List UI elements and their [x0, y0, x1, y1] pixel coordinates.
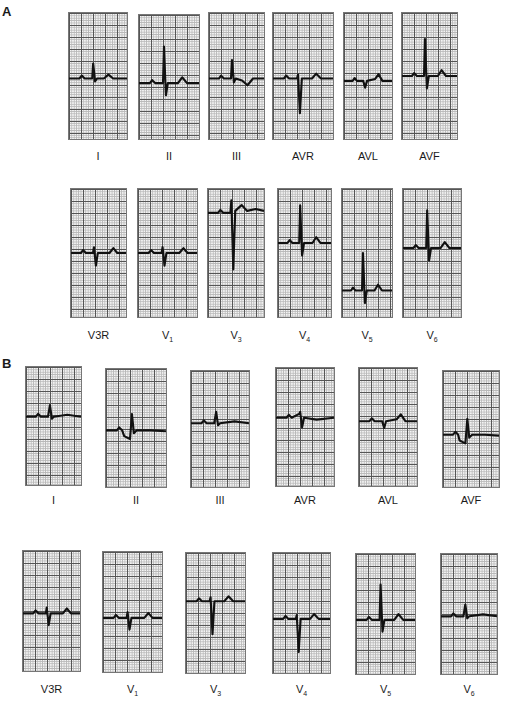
ecg-strip-b-v4 — [272, 552, 331, 674]
section-label-b: B — [2, 356, 11, 371]
lead-label: AVR — [275, 494, 335, 506]
lead-label: V3 — [206, 329, 266, 343]
ecg-trace — [276, 368, 334, 486]
lead-label: V4 — [272, 683, 332, 697]
ecg-trace — [23, 551, 80, 671]
ecg-trace — [139, 15, 199, 139]
lead-name: II — [166, 150, 172, 162]
lead-label: AVF — [441, 494, 501, 506]
ecg-trace — [273, 553, 330, 673]
lead-subscript: 1 — [169, 336, 173, 343]
ecg-strip-b-ii — [105, 368, 167, 488]
lead-subscript: 4 — [306, 336, 310, 343]
ecg-strip-a-iii — [208, 12, 265, 140]
lead-name: I — [96, 150, 99, 162]
lead-name: V — [426, 329, 433, 341]
ecg-trace — [359, 368, 417, 486]
ecg-strip-a-ii — [138, 14, 200, 140]
lead-subscript: 1 — [134, 690, 138, 697]
ecg-strip-b-avr — [275, 367, 335, 487]
lead-label: V1 — [103, 683, 163, 697]
ecg-trace — [26, 367, 81, 485]
ecg-strip-b-v5 — [355, 553, 416, 675]
ecg-trace — [342, 189, 392, 317]
ecg-strip-b-iii — [190, 370, 250, 488]
ecg-strip-b-v3r — [22, 550, 81, 672]
ecg-trace — [402, 13, 457, 139]
ecg-strip-a-v1 — [137, 188, 198, 318]
lead-label: III — [190, 494, 250, 506]
lead-subscript: 3 — [217, 690, 221, 697]
lead-subscript: 5 — [369, 336, 373, 343]
ecg-trace — [103, 552, 162, 672]
lead-label: I — [24, 494, 84, 506]
ecg-strip-a-v3r — [70, 188, 127, 318]
ecg-trace — [69, 13, 127, 139]
ecg-strip-b-v3 — [185, 552, 246, 674]
ecg-trace — [278, 189, 331, 317]
lead-label: II — [106, 494, 166, 506]
lead-label: AVL — [358, 494, 418, 506]
ecg-strip-b-i — [25, 366, 82, 486]
ecg-trace — [138, 189, 197, 317]
lead-label: V3R — [69, 329, 129, 341]
ecg-trace — [191, 371, 249, 487]
lead-name: V — [230, 329, 237, 341]
lead-subscript: 6 — [471, 690, 475, 697]
ecg-strip-a-i — [68, 12, 128, 140]
lead-label: AVF — [400, 150, 460, 162]
lead-label: V4 — [275, 329, 335, 343]
lead-label: II — [139, 150, 199, 162]
ecg-trace — [106, 369, 166, 487]
lead-name: V3R — [88, 329, 109, 341]
ecg-strip-a-v3 — [207, 188, 265, 318]
lead-name: V3R — [41, 683, 62, 695]
lead-name: I — [52, 494, 55, 506]
lead-name: V — [361, 329, 368, 341]
lead-label: V1 — [138, 329, 198, 343]
lead-label: I — [68, 150, 128, 162]
lead-subscript: 5 — [387, 690, 391, 697]
lead-name: AVR — [294, 494, 316, 506]
ecg-strip-a-v4 — [277, 188, 332, 318]
ecg-trace — [344, 13, 392, 139]
ecg-strip-a-avl — [343, 12, 393, 140]
ecg-trace — [208, 189, 264, 317]
ecg-trace — [356, 554, 415, 674]
lead-name: III — [215, 494, 224, 506]
ecg-strip-a-v5 — [341, 188, 393, 318]
lead-label: V5 — [337, 329, 397, 343]
lead-subscript: 6 — [434, 336, 438, 343]
ecg-strip-a-avr — [272, 12, 334, 140]
ecg-trace — [443, 371, 499, 487]
lead-label: III — [207, 150, 267, 162]
lead-label: AVL — [338, 150, 398, 162]
lead-name: AVL — [378, 494, 398, 506]
ecg-strip-b-avl — [358, 367, 418, 487]
ecg-trace — [273, 13, 333, 139]
ecg-trace — [403, 189, 461, 317]
ecg-strip-a-v6 — [402, 188, 462, 318]
ecg-strip-b-avf — [442, 370, 500, 488]
lead-name: AVR — [292, 150, 314, 162]
lead-name: II — [133, 494, 139, 506]
ecg-trace — [441, 554, 497, 674]
lead-subscript: 3 — [238, 336, 242, 343]
lead-label: V3 — [186, 683, 246, 697]
ecg-strip-b-v1 — [102, 551, 163, 673]
lead-subscript: 4 — [303, 690, 307, 697]
lead-name: V — [463, 683, 470, 695]
lead-name: AVF — [461, 494, 482, 506]
lead-label: V5 — [356, 683, 416, 697]
lead-label: V3R — [22, 683, 82, 695]
lead-label: V6 — [439, 683, 499, 697]
ecg-trace — [71, 189, 126, 317]
ecg-trace — [186, 553, 245, 673]
lead-label: AVR — [273, 150, 333, 162]
section-label-a: A — [2, 4, 11, 19]
ecg-strip-a-avf — [401, 12, 458, 140]
ecg-strip-b-v6 — [440, 553, 498, 675]
lead-name: III — [232, 150, 241, 162]
lead-label: V6 — [402, 329, 462, 343]
ecg-trace — [209, 13, 264, 139]
